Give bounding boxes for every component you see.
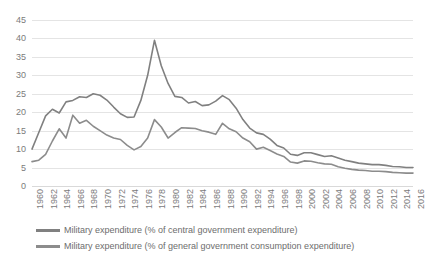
x-tick-label-2010: 2010 — [376, 189, 385, 209]
x-tick-label-1976: 1976 — [145, 189, 154, 209]
x-tick-label-1968: 1968 — [90, 189, 99, 209]
x-tick-label-1996: 1996 — [281, 189, 290, 209]
x-axis-labels: 1960196219641966196819701972197419761978… — [32, 189, 413, 219]
legend-label-1: Military expenditure (% of general gover… — [64, 241, 354, 251]
y-tick-label-0: 0 — [21, 182, 26, 191]
x-tick-label-2004: 2004 — [335, 189, 344, 209]
x-tick-label-1964: 1964 — [63, 189, 72, 209]
legend-item-1[interactable]: Military expenditure (% of general gover… — [0, 238, 428, 254]
y-tick-label-35: 35 — [16, 52, 26, 61]
y-tick-label-40: 40 — [16, 34, 26, 43]
x-tick-label-1978: 1978 — [158, 189, 167, 209]
x-tick-label-1992: 1992 — [254, 189, 263, 209]
x-tick-label-2008: 2008 — [363, 189, 372, 209]
axis-baseline — [32, 186, 413, 187]
x-tick-label-1982: 1982 — [186, 189, 195, 209]
x-tick-label-1972: 1972 — [118, 189, 127, 209]
x-tick-label-2000: 2000 — [308, 189, 317, 209]
x-tick-label-1984: 1984 — [199, 189, 208, 209]
x-tick-label-1980: 1980 — [172, 189, 181, 209]
x-tick-label-1970: 1970 — [104, 189, 113, 209]
y-tick-label-45: 45 — [16, 16, 26, 25]
series-line-1 — [32, 115, 413, 173]
x-tick-label-2016: 2016 — [417, 189, 426, 209]
legend-swatch-1 — [36, 245, 60, 248]
x-tick-label-1990: 1990 — [240, 189, 249, 209]
x-tick-label-1998: 1998 — [295, 189, 304, 209]
y-tick-label-10: 10 — [16, 145, 26, 154]
x-tick-label-1966: 1966 — [77, 189, 86, 209]
y-tick-label-5: 5 — [21, 163, 26, 172]
x-tick-label-2012: 2012 — [390, 189, 399, 209]
x-tick-label-1962: 1962 — [50, 189, 59, 209]
x-tick-label-2014: 2014 — [403, 189, 412, 209]
chart-legend: Military expenditure (% of central gover… — [0, 222, 428, 254]
y-tick-label-15: 15 — [16, 126, 26, 135]
x-tick-label-1994: 1994 — [267, 189, 276, 209]
y-tick-label-20: 20 — [16, 108, 26, 117]
y-tick-label-30: 30 — [16, 71, 26, 80]
y-axis-labels: 051015202530354045 — [0, 0, 30, 190]
legend-item-0[interactable]: Military expenditure (% of central gover… — [0, 222, 428, 238]
legend-label-0: Military expenditure (% of central gover… — [64, 225, 298, 235]
x-tick-label-1960: 1960 — [36, 189, 45, 209]
military-expenditure-line-chart: 051015202530354045 196019621964196619681… — [0, 0, 428, 271]
y-tick-label-25: 25 — [16, 89, 26, 98]
x-tick-label-1986: 1986 — [213, 189, 222, 209]
series-lines — [32, 20, 413, 186]
x-tick-label-2006: 2006 — [349, 189, 358, 209]
x-tick-label-1974: 1974 — [131, 189, 140, 209]
legend-swatch-0 — [36, 229, 60, 232]
x-tick-label-1988: 1988 — [227, 189, 236, 209]
plot-area — [32, 20, 413, 186]
series-line-0 — [32, 40, 413, 167]
x-tick-label-2002: 2002 — [322, 189, 331, 209]
